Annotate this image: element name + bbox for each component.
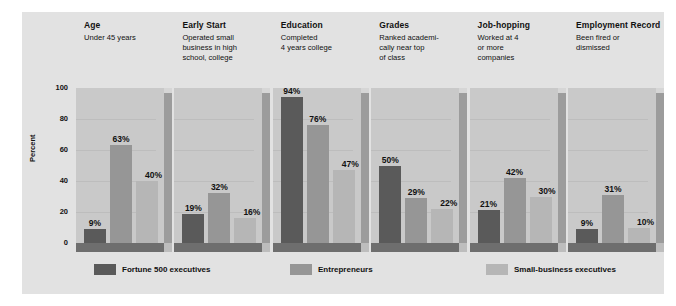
gridline-40: [568, 181, 648, 182]
bar-3-2: 22%: [431, 209, 453, 243]
bar-3-1: 29%: [405, 198, 427, 243]
category-headers: AgeUnder 45 yearsEarly StartOperated sma…: [22, 12, 664, 88]
chart-figure: AgeUnder 45 yearsEarly StartOperated sma…: [0, 0, 676, 306]
gridline-60: [568, 150, 648, 151]
y-tick-80: 80: [42, 114, 68, 123]
category-panel-5: 9%31%10%: [568, 88, 664, 243]
legend-swatch: [290, 264, 312, 275]
bar-1-1: 32%: [208, 193, 230, 243]
category-header-5: Employment RecordBeen fired or dismissed: [576, 20, 662, 53]
gridline-60: [371, 150, 451, 151]
bar-0-2: 40%: [136, 181, 158, 243]
panel-base-side: [459, 243, 467, 252]
category-panel-3: 50%29%22%: [371, 88, 467, 243]
panel-base-shelf: [273, 243, 361, 252]
chart-legend: Fortune 500 executivesEntrepreneursSmall…: [94, 264, 654, 284]
bar-2-2: 47%: [333, 170, 355, 243]
bar-value-label: 40%: [145, 170, 162, 180]
bar-value-label: 42%: [506, 167, 523, 177]
panel-base-shelf: [568, 243, 656, 252]
bar-body: [281, 97, 303, 243]
panel-front-face: 50%29%22%: [371, 88, 459, 243]
bar-5-0: 9%: [576, 229, 598, 243]
bar-body: [379, 166, 401, 244]
panel-base-side: [558, 243, 566, 252]
category-subtitle: Worked at 4 or more companies: [478, 33, 564, 63]
bar-value-label: 16%: [243, 207, 260, 217]
bar-2-0: 94%: [281, 97, 303, 243]
bar-body: [234, 218, 256, 243]
panel-front-face: 94%76%47%: [273, 88, 361, 243]
bar-value-label: 9%: [89, 218, 101, 228]
panel-side-face: [262, 93, 270, 248]
bar-body: [405, 198, 427, 243]
legend-item-1: Entrepreneurs: [290, 264, 373, 275]
bar-body: [576, 229, 598, 243]
category-subtitle: Been fired or dismissed: [576, 33, 662, 53]
panel-base-side: [656, 243, 664, 252]
bar-body: [478, 210, 500, 243]
gridline-60: [470, 150, 550, 151]
bar-3-0: 50%: [379, 166, 401, 244]
bar-4-1: 42%: [504, 178, 526, 243]
bar-0-1: 63%: [110, 145, 132, 243]
panel-base-side: [262, 243, 270, 252]
bar-2-1: 76%: [307, 125, 329, 243]
gridline-80: [174, 119, 254, 120]
bar-value-label: 32%: [211, 182, 228, 192]
category-header-1: Early StartOperated small business in hi…: [182, 20, 268, 63]
category-subtitle: Ranked academi- cally near top of class: [379, 33, 465, 63]
bar-value-label: 21%: [480, 199, 497, 209]
panel-base-shelf: [174, 243, 262, 252]
y-tick-60: 60: [42, 145, 68, 154]
gridline-80: [76, 119, 156, 120]
panel-front-face: 9%31%10%: [568, 88, 656, 243]
bar-body: [208, 193, 230, 243]
bar-value-label: 29%: [408, 187, 425, 197]
bar-value-label: 94%: [283, 86, 300, 96]
legend-label: Small-business executives: [514, 265, 616, 274]
panel-front-face: 9%63%40%: [76, 88, 164, 243]
bar-4-2: 30%: [530, 197, 552, 244]
bar-value-label: 76%: [309, 114, 326, 124]
y-tick-0: 0: [42, 238, 68, 247]
bar-5-2: 10%: [628, 228, 650, 244]
category-header-2: EducationCompleted 4 years college: [281, 20, 367, 53]
category-header-0: AgeUnder 45 years: [84, 20, 170, 43]
category-header-4: Job-hoppingWorked at 4 or more companies: [478, 20, 564, 63]
legend-item-0: Fortune 500 executives: [94, 264, 210, 275]
bar-body: [307, 125, 329, 243]
bar-body: [504, 178, 526, 243]
bar-body: [333, 170, 355, 243]
gridline-80: [568, 119, 648, 120]
gridline-80: [371, 119, 451, 120]
bar-value-label: 50%: [382, 155, 399, 165]
gridline-60: [174, 150, 254, 151]
category-panel-0: 9%63%40%: [76, 88, 172, 243]
bar-value-label: 31%: [604, 184, 621, 194]
panel-base-shelf: [76, 243, 164, 252]
panel-side-face: [164, 93, 172, 248]
y-tick-20: 20: [42, 207, 68, 216]
legend-swatch: [94, 264, 116, 275]
y-axis-title: Percent: [28, 134, 37, 162]
bar-body: [110, 145, 132, 243]
bar-5-1: 31%: [602, 195, 624, 243]
y-tick-100: 100: [42, 83, 68, 92]
category-subtitle: Completed 4 years college: [281, 33, 367, 53]
gridline-80: [470, 119, 550, 120]
chart-plate: AgeUnder 45 yearsEarly StartOperated sma…: [22, 12, 664, 294]
panel-side-face: [656, 93, 664, 248]
panel-front-face: 21%42%30%: [470, 88, 558, 243]
legend-item-2: Small-business executives: [486, 264, 616, 275]
category-title: Job-hopping: [478, 20, 564, 31]
panel-base-shelf: [470, 243, 558, 252]
panel-side-face: [558, 93, 566, 248]
bar-1-0: 19%: [182, 214, 204, 243]
panel-front-face: 19%32%16%: [174, 88, 262, 243]
category-title: Employment Record: [576, 20, 662, 31]
bar-1-2: 16%: [234, 218, 256, 243]
category-header-3: GradesRanked academi- cally near top of …: [379, 20, 465, 63]
category-title: Early Start: [182, 20, 268, 31]
bar-body: [628, 228, 650, 244]
